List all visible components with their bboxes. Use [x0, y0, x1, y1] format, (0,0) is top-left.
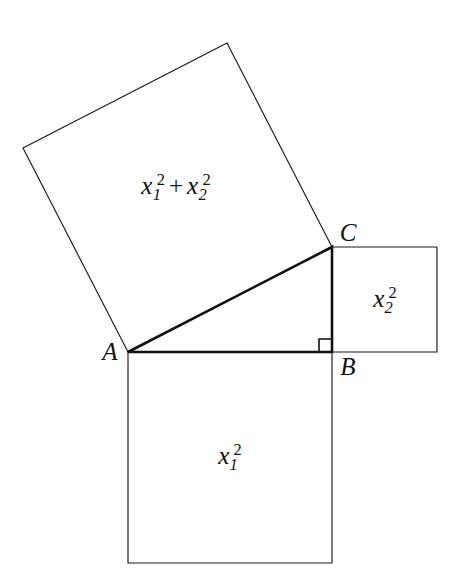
- pythagorean-diagram: x12+x22 x22 x12 A B C: [0, 0, 455, 588]
- leg1-exponent: 2: [234, 440, 242, 459]
- leg2-variable: x: [373, 285, 384, 312]
- hyp-operator: +: [165, 172, 187, 199]
- area-label-vertical-leg-square: x22: [373, 285, 397, 316]
- right-angle-marker: [319, 339, 332, 352]
- hyp-term2-variable: x: [187, 172, 198, 199]
- hyp-term1-variable: x: [141, 172, 152, 199]
- area-label-hypotenuse-square: x12+x22: [141, 172, 210, 203]
- leg2-exponent: 2: [389, 283, 397, 302]
- vertex-label-c: C: [340, 220, 357, 245]
- area-label-horizontal-leg-square: x12: [218, 442, 242, 473]
- leg1-variable: x: [218, 442, 229, 469]
- vertex-label-a: A: [102, 339, 117, 364]
- vertex-label-b: B: [340, 354, 355, 379]
- hyp-term2-exponent: 2: [202, 170, 210, 189]
- hyp-term1-exponent: 2: [157, 170, 165, 189]
